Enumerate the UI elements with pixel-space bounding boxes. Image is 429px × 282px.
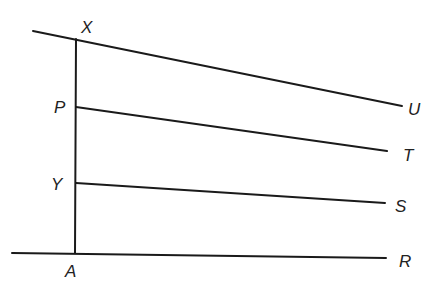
label-X: X: [80, 18, 93, 37]
line-XA: [75, 39, 76, 253]
label-P: P: [54, 98, 66, 117]
line-XU: [33, 31, 402, 106]
line-PT: [76, 107, 387, 151]
label-Y: Y: [51, 175, 64, 194]
line-AR: [12, 253, 386, 258]
line-YS: [76, 183, 385, 203]
label-A: A: [64, 262, 76, 281]
label-R: R: [399, 252, 411, 271]
label-U: U: [408, 100, 421, 119]
geometry-diagram: X P Y A U T S R: [0, 0, 429, 282]
label-S: S: [395, 197, 407, 216]
label-T: T: [403, 146, 415, 165]
